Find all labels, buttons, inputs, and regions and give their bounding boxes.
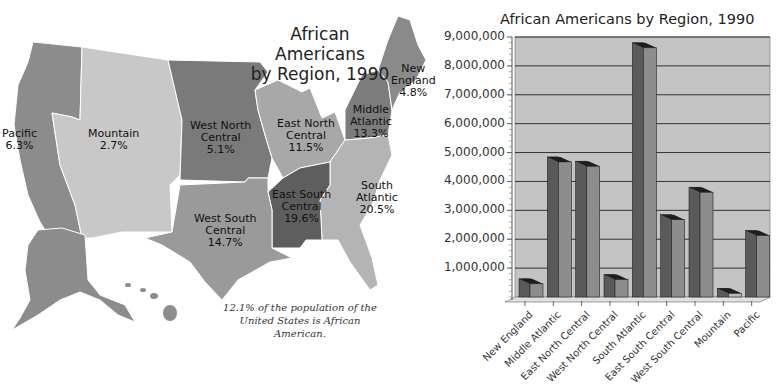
y-tick-label: 1,000,000 (425, 260, 505, 274)
map-caption: 12.1% of the population of the United St… (215, 301, 385, 340)
bar-east-north-central (576, 161, 600, 297)
y-tick-label: 7,000,000 (425, 87, 505, 101)
y-tick-label: 2,000,000 (425, 231, 505, 245)
bar-west-north-central (604, 274, 628, 297)
label-middle-atlantic: Middle Atlantic 13.3% (350, 104, 392, 140)
map-title: African Americans by Region, 1990 (250, 24, 390, 84)
label-south-atlantic: South Atlantic 20.5% (356, 180, 398, 216)
map-region-hawaii (125, 283, 177, 321)
map-region-alaska (12, 228, 135, 330)
y-tick-label: 4,000,000 (425, 173, 505, 187)
bar-middle-atlantic (547, 157, 571, 297)
label-west-south-central: West South Central 14.7% (194, 213, 257, 249)
label-west-north-central: West North Central 5.1% (190, 120, 251, 156)
bar-south-atlantic (632, 43, 656, 297)
map-title-line2: by Region, 1990 (250, 64, 390, 84)
label-east-south-central: East South Central 19.6% (272, 189, 331, 225)
y-tick-label: 6,000,000 (425, 116, 505, 130)
label-east-north-central: East North Central 11.5% (277, 118, 335, 154)
bar-chart-panel: African Americans by Region, 1990 1,000,… (420, 0, 779, 391)
bar-pacific (746, 231, 770, 297)
bar-east-south-central (661, 215, 685, 297)
plot-floor (505, 297, 770, 302)
y-tick-label: 5,000,000 (425, 145, 505, 159)
us-region-map: African Americans by Region, 1990 Pacifi… (0, 0, 430, 391)
map-title-line1: African Americans (250, 24, 390, 64)
label-mountain: Mountain 2.7% (88, 128, 139, 152)
y-tick-label: 3,000,000 (425, 202, 505, 216)
bar-west-south-central (689, 187, 713, 297)
y-tick-label: 9,000,000 (425, 29, 505, 43)
y-tick-label: 8,000,000 (425, 58, 505, 72)
label-pacific: Pacific 6.3% (2, 128, 37, 152)
